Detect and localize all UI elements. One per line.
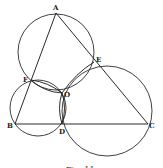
chord-fo (31, 80, 62, 93)
miquel-diagram: A E F O B D C Fig. 11 (0, 0, 163, 168)
point-label-c: C (149, 121, 155, 130)
point-label-b: B (7, 121, 13, 130)
circle-afe (18, 14, 94, 90)
point-label-f: F (23, 75, 28, 84)
arc-fo (31, 80, 62, 93)
side-ab (15, 13, 56, 124)
point-label-d: D (59, 127, 65, 136)
point-label-a: A (52, 3, 59, 12)
circle-bfd (10, 80, 66, 136)
figure-caption: Fig. 11 (66, 165, 95, 168)
geometry-figure: A E F O B D C Fig. 11 (0, 0, 163, 168)
point-label-e: E (96, 55, 101, 64)
point-label-o: O (64, 90, 70, 99)
circle-cde (62, 66, 152, 156)
side-ac (56, 13, 148, 124)
